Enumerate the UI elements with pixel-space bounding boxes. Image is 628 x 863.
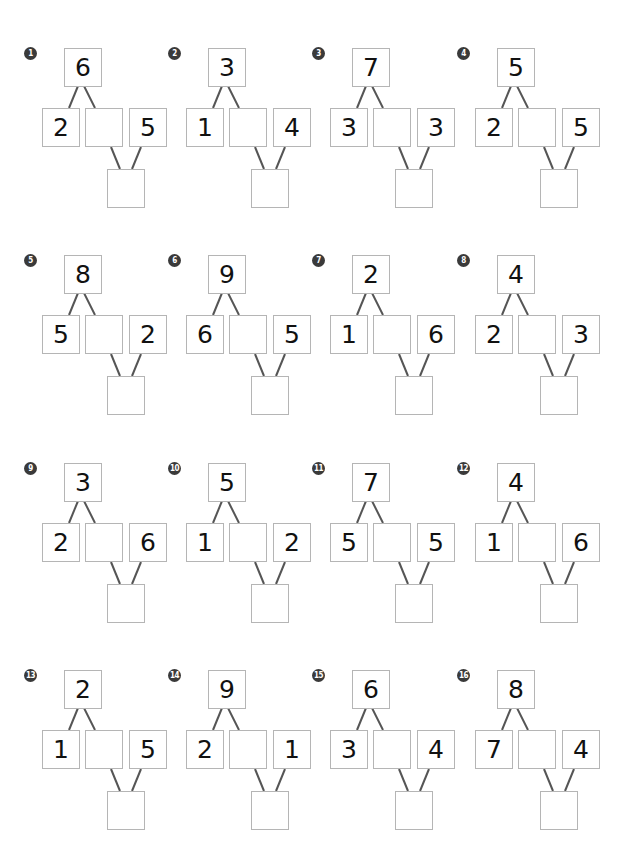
number-value: 3 xyxy=(316,49,321,58)
left-number-box: 2 xyxy=(42,523,80,562)
left-number-box: 2 xyxy=(475,108,513,147)
top-value: 4 xyxy=(508,470,524,495)
top-number-box: 4 xyxy=(497,255,535,294)
bottom-answer-box[interactable] xyxy=(540,376,578,415)
left-value: 3 xyxy=(341,737,357,762)
left-value: 2 xyxy=(197,737,213,762)
right-value: 1 xyxy=(284,737,300,762)
bottom-answer-box[interactable] xyxy=(395,791,433,830)
middle-answer-box[interactable] xyxy=(85,730,123,769)
problem-number-badge: 12 xyxy=(457,462,470,475)
left-value: 1 xyxy=(486,530,502,555)
left-value: 3 xyxy=(341,115,357,140)
right-value: 5 xyxy=(140,737,156,762)
bottom-answer-box[interactable] xyxy=(251,791,289,830)
middle-answer-box[interactable] xyxy=(373,108,411,147)
number-value: 12 xyxy=(459,464,468,473)
middle-answer-box[interactable] xyxy=(85,108,123,147)
left-value: 2 xyxy=(53,530,69,555)
left-value: 2 xyxy=(486,322,502,347)
right-number-box: 3 xyxy=(417,108,455,147)
bottom-answer-box[interactable] xyxy=(395,584,433,623)
left-value: 5 xyxy=(341,530,357,555)
left-number-box: 2 xyxy=(42,108,80,147)
left-number-box: 1 xyxy=(186,108,224,147)
problem-number-badge: 2 xyxy=(168,47,181,60)
top-number-box: 7 xyxy=(352,463,390,502)
middle-answer-box[interactable] xyxy=(85,523,123,562)
bottom-answer-box[interactable] xyxy=(107,584,145,623)
bottom-answer-box[interactable] xyxy=(107,376,145,415)
number-value: 9 xyxy=(28,464,33,473)
problem-number-badge: 8 xyxy=(457,254,470,267)
problem-number-badge: 3 xyxy=(312,47,325,60)
middle-answer-box[interactable] xyxy=(229,730,267,769)
middle-answer-box[interactable] xyxy=(229,108,267,147)
right-number-box: 6 xyxy=(562,523,600,562)
bottom-answer-box[interactable] xyxy=(540,584,578,623)
bottom-answer-box[interactable] xyxy=(540,791,578,830)
middle-answer-box[interactable] xyxy=(85,315,123,354)
bottom-answer-box[interactable] xyxy=(107,791,145,830)
right-value: 6 xyxy=(140,530,156,555)
middle-answer-box[interactable] xyxy=(373,315,411,354)
middle-answer-box[interactable] xyxy=(373,523,411,562)
left-value: 2 xyxy=(486,115,502,140)
left-number-box: 5 xyxy=(330,523,368,562)
number-value: 16 xyxy=(459,671,468,680)
number-value: 8 xyxy=(461,256,466,265)
top-number-box: 3 xyxy=(208,48,246,87)
left-number-box: 3 xyxy=(330,108,368,147)
number-value: 1 xyxy=(28,49,33,58)
problem-number-badge: 5 xyxy=(24,254,37,267)
top-number-box: 9 xyxy=(208,670,246,709)
right-number-box: 4 xyxy=(417,730,455,769)
left-number-box: 1 xyxy=(186,523,224,562)
right-value: 6 xyxy=(428,322,444,347)
left-value: 7 xyxy=(486,737,502,762)
top-number-box: 8 xyxy=(64,255,102,294)
right-number-box: 2 xyxy=(129,315,167,354)
right-number-box: 5 xyxy=(562,108,600,147)
middle-answer-box[interactable] xyxy=(229,523,267,562)
left-number-box: 3 xyxy=(330,730,368,769)
middle-answer-box[interactable] xyxy=(518,108,556,147)
right-value: 6 xyxy=(573,530,589,555)
right-number-box: 3 xyxy=(562,315,600,354)
middle-answer-box[interactable] xyxy=(229,315,267,354)
middle-answer-box[interactable] xyxy=(518,523,556,562)
top-value: 9 xyxy=(219,262,235,287)
left-number-box: 2 xyxy=(475,315,513,354)
bottom-answer-box[interactable] xyxy=(395,376,433,415)
right-number-box: 2 xyxy=(273,523,311,562)
middle-answer-box[interactable] xyxy=(518,730,556,769)
left-number-box: 6 xyxy=(186,315,224,354)
number-value: 6 xyxy=(172,256,177,265)
top-value: 5 xyxy=(219,470,235,495)
bottom-answer-box[interactable] xyxy=(251,584,289,623)
right-number-box: 4 xyxy=(273,108,311,147)
middle-answer-box[interactable] xyxy=(518,315,556,354)
bottom-answer-box[interactable] xyxy=(251,376,289,415)
bottom-answer-box[interactable] xyxy=(107,169,145,208)
number-bond-problem-8: 8 4 2 3 xyxy=(497,255,628,425)
bottom-answer-box[interactable] xyxy=(540,169,578,208)
bottom-answer-box[interactable] xyxy=(395,169,433,208)
problem-number-badge: 13 xyxy=(24,669,37,682)
bottom-answer-box[interactable] xyxy=(251,169,289,208)
number-value: 14 xyxy=(170,671,179,680)
number-value: 4 xyxy=(461,49,466,58)
problem-number-badge: 11 xyxy=(312,462,325,475)
left-number-box: 7 xyxy=(475,730,513,769)
right-value: 2 xyxy=(284,530,300,555)
top-number-box: 6 xyxy=(64,48,102,87)
right-number-box: 1 xyxy=(273,730,311,769)
top-number-box: 2 xyxy=(64,670,102,709)
right-number-box: 5 xyxy=(129,730,167,769)
right-value: 4 xyxy=(284,115,300,140)
left-number-box: 5 xyxy=(42,315,80,354)
top-value: 3 xyxy=(75,470,91,495)
top-value: 8 xyxy=(508,677,524,702)
middle-answer-box[interactable] xyxy=(373,730,411,769)
top-number-box: 9 xyxy=(208,255,246,294)
